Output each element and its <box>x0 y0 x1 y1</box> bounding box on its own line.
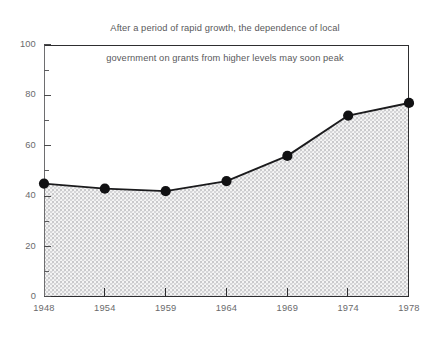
x-axis-tick <box>226 288 227 297</box>
chart-figure: After a period of rapid growth, the depe… <box>0 0 439 338</box>
x-axis-label: 1954 <box>83 303 127 313</box>
x-axis-label: 1978 <box>387 303 431 313</box>
y-axis-tick-major <box>44 296 51 297</box>
y-axis-tick-major <box>44 44 51 45</box>
y-axis-label: 40 <box>2 190 36 200</box>
y-axis-tick-major <box>44 145 51 146</box>
x-axis-tick <box>287 288 288 297</box>
x-axis-label: 1959 <box>144 303 188 313</box>
y-axis-tick-minor <box>44 170 49 171</box>
x-axis-label: 1974 <box>326 303 370 313</box>
x-axis-label: 1948 <box>22 303 66 313</box>
y-axis-label: 0 <box>2 291 36 301</box>
y-axis-tick-major <box>44 95 51 96</box>
y-axis-tick-minor <box>44 70 49 71</box>
y-axis-label: 20 <box>2 241 36 251</box>
chart-title-line-1: After a period of rapid growth, the depe… <box>60 21 390 36</box>
y-axis-label: 60 <box>2 140 36 150</box>
x-axis-tick <box>104 288 105 297</box>
x-axis-tick <box>347 288 348 297</box>
y-axis-tick-minor <box>44 221 49 222</box>
y-axis-tick-major <box>44 246 51 247</box>
y-axis-label: 80 <box>2 89 36 99</box>
x-axis-tick <box>165 288 166 297</box>
x-axis-tick <box>408 288 409 297</box>
plot-frame <box>44 45 409 297</box>
y-axis-label: 100 <box>2 39 36 49</box>
x-axis-label: 1969 <box>265 303 309 313</box>
y-axis-tick-minor <box>44 271 49 272</box>
y-axis-tick-minor <box>44 120 49 121</box>
x-axis-label: 1964 <box>205 303 249 313</box>
y-axis-tick-major <box>44 196 51 197</box>
